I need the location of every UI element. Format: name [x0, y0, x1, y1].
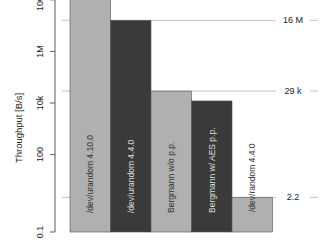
reference-line-label: 16 M [283, 15, 303, 25]
y-tick-label: 10k [35, 95, 45, 110]
reference-line-label: 2.2 [287, 192, 300, 202]
y-tick-label: 100 [35, 147, 45, 162]
y-axis-title: Throughput [B/s] [13, 93, 24, 163]
y-tick-label: 100M [35, 0, 45, 11]
bar-label: /dev/urandom 4.10.0 [85, 135, 95, 213]
reference-line-label: 29 k [284, 86, 302, 96]
throughput-bar-chart: 167 M16 M29 k2.2 /dev/urandom 4.10.0/dev… [0, 0, 320, 249]
bars: /dev/urandom 4.10.0/dev/urandom 4.4.0Ber… [70, 0, 273, 232]
bar-label: Bergmann w/o p.p. [166, 142, 176, 213]
bar-label: Bergmann w/ AES p.p. [207, 127, 217, 213]
y-axis: 100M1M10k1000.1 [35, 0, 55, 238]
y-tick-label: 1M [35, 45, 45, 58]
y-tick-label: 0.1 [35, 226, 45, 239]
bar-label: /dev/urandom 4.4.0 [126, 139, 136, 213]
bar-label: /dev/random 4.4.0 [247, 143, 257, 212]
